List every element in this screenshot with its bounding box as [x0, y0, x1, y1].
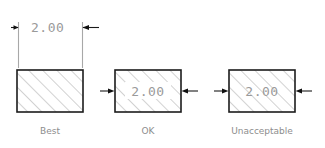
caption-best: Best — [40, 126, 60, 136]
hatch-fill-unacceptable — [229, 70, 295, 112]
dimension-arrow-right-inward-unacceptable — [296, 89, 313, 94]
dimension-text-ok: 2.00 — [131, 84, 164, 99]
dimension-arrow-right-inward-ok — [182, 89, 199, 94]
example-best: 2.00 Best — [11, 20, 99, 136]
section-box-best — [17, 70, 83, 112]
caption-unacceptable: Unacceptable — [231, 126, 293, 136]
caption-ok: OK — [142, 126, 156, 136]
section-box-unacceptable: 2.00 — [229, 70, 295, 112]
dimension-arrow-left-inward-ok — [100, 89, 115, 94]
dimension-arrow-left-inward-unacceptable — [214, 89, 229, 94]
hatch-fill-best — [17, 70, 83, 112]
example-ok: 2.00 OK — [100, 70, 198, 136]
dimension-arrow-left-outward — [11, 25, 19, 29]
dimension-arrow-right-outward — [83, 25, 100, 30]
technical-drawing-figure: 2.00 Best — [0, 0, 325, 148]
example-unacceptable: 2.00 Unacceptable — [214, 70, 312, 136]
drawing-canvas: 2.00 Best — [0, 0, 325, 148]
dimension-text-best: 2.00 — [31, 20, 64, 35]
